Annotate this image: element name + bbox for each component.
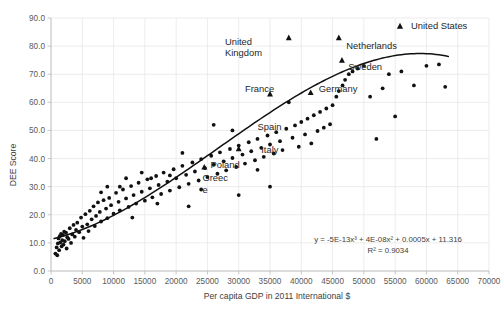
country-labels: UnitedKingdomNetherlandsSwedenFranceGerm… bbox=[202, 36, 397, 195]
data-point bbox=[281, 148, 285, 152]
data-point bbox=[328, 122, 332, 126]
data-point bbox=[187, 204, 191, 208]
data-point bbox=[187, 182, 191, 186]
data-point bbox=[80, 225, 84, 229]
data-point bbox=[69, 241, 73, 245]
data-point bbox=[243, 162, 247, 166]
data-point bbox=[177, 185, 181, 189]
data-point bbox=[347, 72, 351, 76]
data-point bbox=[82, 236, 86, 240]
country-label: Poland bbox=[211, 159, 240, 170]
data-point bbox=[324, 107, 328, 111]
trendline-equation-label: y = -5E-13x³ + 4E-08x² + 0.0005x + 11.31… bbox=[314, 235, 462, 244]
data-point bbox=[124, 176, 128, 180]
data-point bbox=[132, 193, 136, 197]
data-point bbox=[181, 151, 185, 155]
data-point bbox=[231, 129, 235, 133]
y-axis-title: DEE Score bbox=[8, 144, 18, 187]
data-point bbox=[155, 202, 159, 206]
data-point bbox=[162, 171, 166, 175]
r-squared-label: R² = 0.9034 bbox=[368, 246, 410, 255]
data-point bbox=[443, 85, 447, 89]
country-label: e bbox=[202, 184, 207, 195]
data-point bbox=[137, 181, 141, 185]
data-point bbox=[104, 207, 108, 211]
data-point bbox=[168, 174, 172, 178]
data-point bbox=[143, 199, 147, 203]
x-tick-label: 25000 bbox=[196, 277, 219, 286]
data-point bbox=[184, 173, 188, 177]
data-point bbox=[218, 150, 222, 154]
data-point bbox=[343, 78, 347, 82]
highlighted-data-point bbox=[339, 57, 345, 63]
y-tick-label: 70.0 bbox=[29, 70, 45, 79]
x-tick-label: 55000 bbox=[384, 277, 407, 286]
data-point bbox=[99, 190, 103, 194]
data-point bbox=[387, 72, 391, 76]
data-point bbox=[331, 103, 335, 107]
country-label: Greec bbox=[202, 172, 228, 183]
data-point bbox=[90, 217, 94, 221]
data-point bbox=[87, 229, 91, 233]
chart-canvas: 0.010.020.030.040.050.060.070.080.090.0 … bbox=[0, 0, 504, 312]
data-point bbox=[150, 195, 154, 199]
data-point bbox=[262, 155, 266, 159]
data-point bbox=[303, 132, 307, 136]
data-point bbox=[437, 62, 441, 66]
data-point bbox=[159, 192, 163, 196]
data-point bbox=[109, 203, 113, 207]
country-label: Germany bbox=[319, 83, 358, 94]
x-tick-label: 15000 bbox=[133, 277, 156, 286]
data-point bbox=[72, 223, 76, 227]
data-point bbox=[268, 185, 272, 189]
data-point bbox=[291, 136, 295, 140]
y-tick-label: 60.0 bbox=[29, 98, 45, 107]
data-point bbox=[129, 184, 133, 188]
data-point bbox=[368, 95, 372, 99]
data-point bbox=[63, 239, 67, 243]
country-label: France bbox=[245, 83, 274, 94]
x-axis-tick-labels: 0500010000150002000025000300003500040000… bbox=[49, 277, 501, 286]
data-point bbox=[157, 183, 161, 187]
y-tick-label: 40.0 bbox=[29, 155, 45, 164]
data-point bbox=[197, 179, 201, 183]
x-tick-label: 40000 bbox=[290, 277, 313, 286]
data-point bbox=[65, 247, 69, 251]
country-label: Netherlands bbox=[346, 40, 397, 51]
data-point bbox=[241, 153, 245, 157]
x-tick-label: 5000 bbox=[73, 277, 92, 286]
data-point bbox=[117, 200, 121, 204]
data-point bbox=[124, 197, 128, 201]
data-point bbox=[256, 137, 260, 141]
data-point bbox=[322, 126, 326, 130]
data-point bbox=[247, 140, 251, 144]
x-tick-label: 0 bbox=[49, 277, 54, 286]
country-label: Kingdom bbox=[225, 47, 262, 58]
data-point bbox=[256, 168, 260, 172]
highlighted-data-point bbox=[336, 35, 342, 41]
data-point bbox=[145, 177, 149, 181]
data-point bbox=[412, 84, 416, 88]
data-point bbox=[334, 95, 338, 99]
data-point bbox=[154, 174, 158, 178]
data-point bbox=[228, 147, 232, 151]
y-tick-label: 90.0 bbox=[29, 14, 45, 23]
highlighted-data-point bbox=[286, 35, 292, 41]
data-point bbox=[118, 185, 122, 189]
data-point bbox=[374, 137, 378, 141]
data-point bbox=[140, 190, 144, 194]
data-point bbox=[68, 226, 72, 230]
x-tick-label: 50000 bbox=[352, 277, 375, 286]
data-point bbox=[249, 149, 253, 153]
data-point bbox=[88, 209, 92, 213]
highlighted-data-point bbox=[201, 164, 207, 170]
country-label: Italy bbox=[261, 144, 279, 155]
data-point bbox=[148, 186, 152, 190]
data-point bbox=[149, 176, 153, 180]
data-point bbox=[172, 167, 176, 171]
data-point bbox=[98, 210, 102, 214]
data-point bbox=[381, 86, 385, 90]
data-point bbox=[425, 64, 429, 68]
data-point bbox=[212, 123, 216, 127]
data-point bbox=[266, 134, 270, 138]
